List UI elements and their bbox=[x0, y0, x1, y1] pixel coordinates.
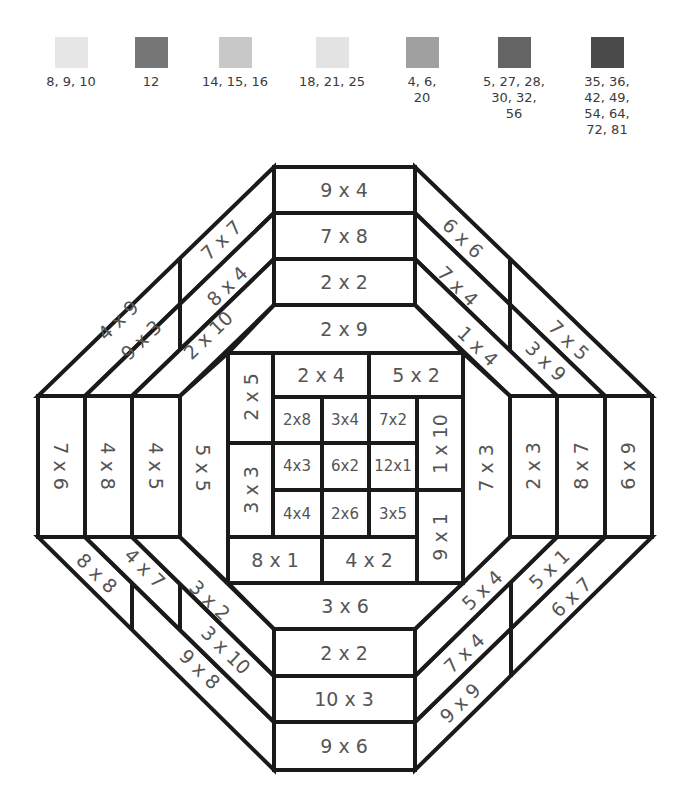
label: 2 x 9 bbox=[320, 318, 368, 340]
label: 5 x 5 bbox=[192, 444, 214, 492]
label: 1 x 10 bbox=[429, 414, 451, 474]
label: 8 x 7 bbox=[570, 442, 592, 490]
label: 2 x 4 bbox=[297, 364, 345, 386]
label: 5 x 2 bbox=[392, 364, 440, 386]
color-by-number-octagon: 9 x 4 7 x 8 2 x 2 2 x 9 3 x 6 2 x 2 10 x… bbox=[0, 0, 689, 798]
label: 2x6 bbox=[331, 505, 359, 523]
label: 4 x 5 bbox=[145, 442, 167, 490]
label: 4x3 bbox=[283, 457, 311, 475]
label: 4x4 bbox=[283, 505, 311, 523]
label: 3x4 bbox=[331, 411, 359, 429]
label: 9 x 4 bbox=[320, 179, 368, 201]
label: 2x8 bbox=[283, 411, 311, 429]
label: 7 x 3 bbox=[475, 444, 497, 492]
label: 10 x 3 bbox=[314, 688, 374, 710]
label: 4 x 8 bbox=[97, 442, 119, 490]
label: 8 x 1 bbox=[251, 549, 299, 571]
label: 2 x 2 bbox=[320, 271, 368, 293]
label: 4 x 2 bbox=[345, 549, 393, 571]
label: 7x2 bbox=[379, 411, 407, 429]
label: 9 x 1 bbox=[429, 513, 451, 561]
grid-labels: 2x8 3x4 7x2 4x3 6x2 12x1 4x4 2x6 3x5 bbox=[283, 411, 412, 523]
label: 6x2 bbox=[331, 457, 359, 475]
label: 7 x 8 bbox=[320, 225, 368, 247]
label: 3x5 bbox=[379, 505, 407, 523]
label: 12x1 bbox=[374, 457, 412, 475]
label: 9 x 6 bbox=[320, 735, 368, 757]
label: 2 x 2 bbox=[320, 642, 368, 664]
label: 7 x 6 bbox=[50, 442, 72, 490]
label: 3 x 3 bbox=[240, 466, 262, 514]
label: 2 x 3 bbox=[522, 442, 544, 490]
label: 3 x 6 bbox=[321, 595, 369, 617]
label: 2 x 5 bbox=[240, 373, 262, 421]
label: 6 x 9 bbox=[617, 442, 639, 490]
